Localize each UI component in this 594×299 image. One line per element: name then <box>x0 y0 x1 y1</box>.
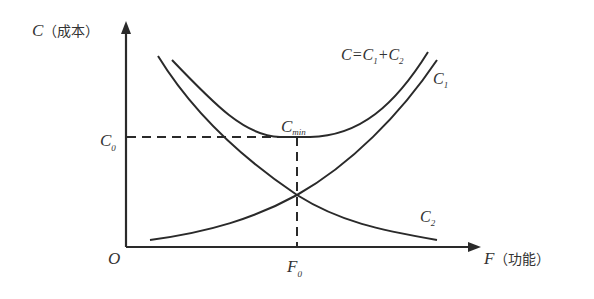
c2-curve-label: C2 <box>420 208 436 228</box>
c1-curve-label: C1 <box>433 70 448 90</box>
total-cost-curve-label: C=C1+C2 <box>341 46 404 66</box>
cost-function-chart: C（成本） F（功能） O C0 F0 Cmin C=C1+C2 C1 C2 <box>0 0 594 299</box>
curve-c1 <box>150 60 437 240</box>
x-axis-arrow-icon <box>468 242 481 252</box>
cmin-label: Cmin <box>281 117 306 137</box>
y-axis-arrow-icon <box>121 21 131 34</box>
x-axis-label: F（功能） <box>483 249 550 268</box>
c0-label: C0 <box>100 131 116 153</box>
f0-label: F0 <box>286 257 302 279</box>
y-axis-label: C（成本） <box>32 21 99 40</box>
origin-label: O <box>108 249 120 268</box>
